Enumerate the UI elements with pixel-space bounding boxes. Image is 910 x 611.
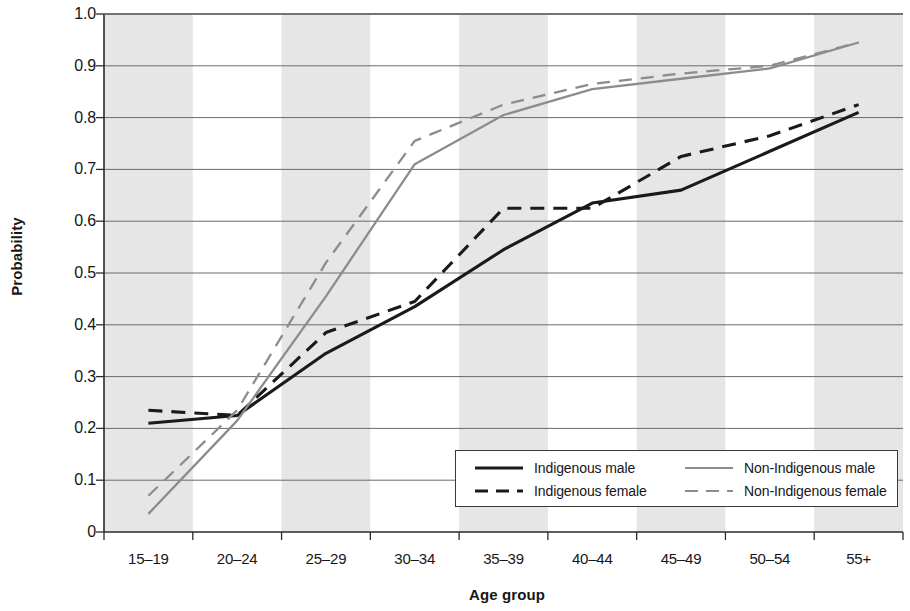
legend-swatch-line-icon [684,462,734,474]
x-tick-label-25-29: 25–29 [282,550,371,568]
x-axis-tick-labels: 15–1920–2425–2930–3435–3940–4445–4950–54… [104,550,910,576]
legend-label: Non-Indigenous male [744,461,875,475]
legend-label: Non-Indigenous female [744,484,887,498]
x-tick-label-20-24: 20–24 [193,550,282,568]
legend-swatch-line-icon [474,485,524,497]
x-tick-label-15-19: 15–19 [104,550,193,568]
legend-label: Indigenous female [534,484,647,498]
x-tick-label-50-54: 50–54 [725,550,814,568]
x-axis-tick-marks [104,532,903,540]
x-tick-label-35-39: 35–39 [459,550,548,568]
x-tick-label-30-34: 30–34 [370,550,459,568]
x-tick-label-40-44: 40–44 [548,550,637,568]
legend-item-non-indigenous-female: Non-Indigenous female [684,480,887,502]
legend-item-indigenous-female: Indigenous female [474,480,647,502]
legend-swatch-line-icon [684,485,734,497]
plot-area [0,0,910,611]
x-tick-label-45-49: 45–49 [637,550,726,568]
x-axis-title: Age group [104,586,910,603]
y-axis-tick-marks [96,14,104,532]
legend-swatch-line-icon [474,462,524,474]
chart-figure: Probability 00.10.20.30.40.50.60.70.80.9… [0,0,910,611]
x-tick-label-55+: 55+ [814,550,903,568]
legend-item-non-indigenous-male: Non-Indigenous male [684,457,875,479]
legend-label: Indigenous male [534,461,635,475]
chart-legend: Indigenous maleIndigenous femaleNon-Indi… [455,450,898,507]
legend-item-indigenous-male: Indigenous male [474,457,635,479]
